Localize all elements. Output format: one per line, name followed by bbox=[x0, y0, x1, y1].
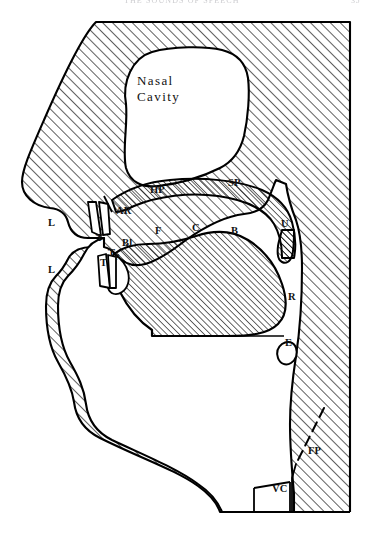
label-tongue-root: R bbox=[288, 292, 296, 303]
nasal-cavity-label-line2: Cavity bbox=[137, 89, 180, 105]
label-soft-palate: SP bbox=[228, 178, 241, 189]
label-uvula: U bbox=[281, 219, 289, 230]
label-hard-palate: HP bbox=[150, 185, 165, 196]
nasal-cavity-label: Nasal Cavity bbox=[137, 73, 180, 105]
label-false-pharynx: FP bbox=[308, 446, 321, 457]
label-tooth-point: Tp bbox=[108, 248, 119, 259]
label-tongue-blade: Bl bbox=[122, 238, 132, 249]
label-alveolar-ridge: AR bbox=[116, 206, 132, 217]
label-vocal-cords: VC bbox=[272, 484, 288, 495]
uvula-shape bbox=[278, 230, 294, 263]
label-tongue-front: F bbox=[155, 226, 162, 237]
label-epiglottis: E bbox=[285, 338, 292, 349]
label-teeth-upper: T bbox=[96, 233, 103, 244]
label-lips-lower: L bbox=[48, 265, 55, 276]
label-teeth-lower: T bbox=[100, 258, 107, 269]
label-lips-upper: L bbox=[48, 218, 55, 229]
label-tongue-centre: C bbox=[192, 223, 200, 234]
nasal-cavity-label-line1: Nasal bbox=[137, 73, 180, 89]
vocal-tract-figure: THE SOUNDS OF SPEECH 35 bbox=[0, 0, 366, 533]
label-tongue-back: B bbox=[231, 226, 238, 237]
